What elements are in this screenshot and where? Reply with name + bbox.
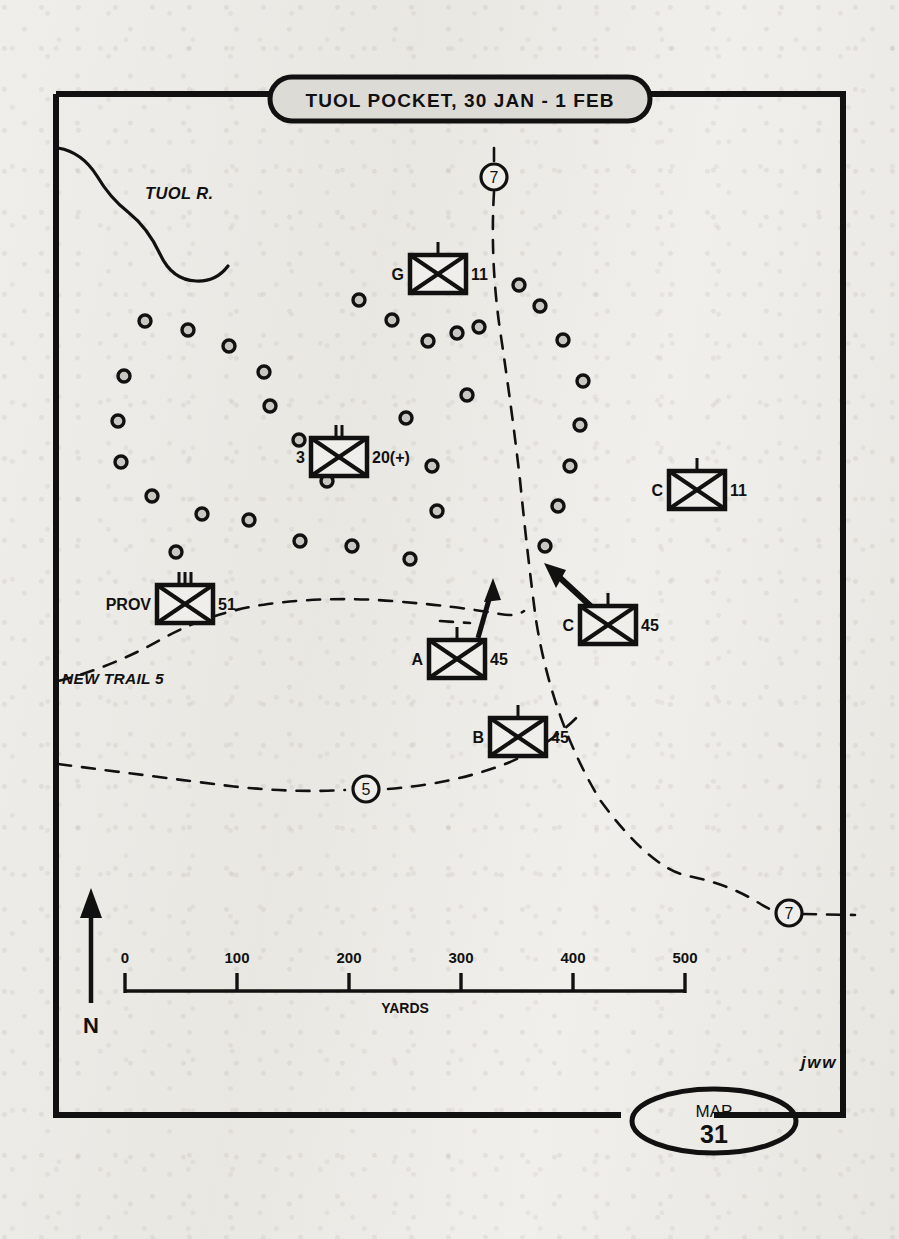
enemy-positions-layer [112, 279, 589, 565]
scale-tick-label: 500 [672, 949, 697, 966]
enemy-position-marker [461, 389, 473, 401]
unit-g-11: G11 [392, 242, 488, 293]
unit-c-11: C11 [651, 458, 747, 509]
enemy-position-marker [473, 321, 485, 333]
route-marker-label: 7 [785, 905, 794, 922]
trail-route5-east [388, 714, 580, 789]
enemy-position-marker [353, 294, 365, 306]
enemy-position-marker [115, 456, 127, 468]
scale-unit-label: YARDS [381, 1000, 429, 1016]
map-title: TUOL POCKET, 30 JAN - 1 FEB [305, 90, 614, 111]
map-number-badge: MAP 31 [632, 1089, 796, 1153]
unit-parent: 11 [730, 482, 747, 499]
unit-b-45: B45 [472, 705, 568, 756]
enemy-position-marker [539, 540, 551, 552]
north-arrow: N [80, 888, 102, 1038]
enemy-position-marker [196, 508, 208, 520]
scale-tick-label: 200 [336, 949, 361, 966]
map-svg: TUOL POCKET, 30 JAN - 1 FEB MAP 31 jww T… [0, 0, 899, 1239]
route-7-top: 7 [481, 164, 507, 190]
enemy-position-marker [112, 415, 124, 427]
scale-tick-label: 300 [448, 949, 473, 966]
route-7-right: 7 [776, 900, 802, 926]
scale-tick-label: 100 [224, 949, 249, 966]
tuol-river: TUOL R. [58, 148, 228, 281]
unit-parent: 51 [218, 596, 236, 613]
scale-bar-line [125, 973, 685, 993]
river-line [58, 148, 228, 281]
unit-parent: 20(+) [372, 449, 410, 466]
route-marker-label: 7 [490, 169, 499, 186]
enemy-position-marker [404, 553, 416, 565]
trail-route5-west [58, 764, 345, 791]
route-marker-label: 5 [362, 781, 371, 798]
north-arrow-head [80, 888, 102, 918]
map-canvas: TUOL POCKET, 30 JAN - 1 FEB MAP 31 jww T… [0, 0, 899, 1239]
scale-tick-label: 0 [121, 949, 129, 966]
unit-designation: B [472, 729, 484, 746]
enemy-position-marker [422, 335, 434, 347]
enemy-position-marker [451, 327, 463, 339]
trail-connector-a [440, 621, 470, 623]
enemy-position-marker [264, 400, 276, 412]
unit-parent: 45 [551, 729, 569, 746]
scale-tick-label: 400 [560, 949, 585, 966]
unit-designation: A [411, 651, 423, 668]
enemy-position-marker [386, 314, 398, 326]
enemy-position-marker [552, 500, 564, 512]
enemy-position-marker [293, 434, 305, 446]
unit-c-45: C45 [562, 593, 658, 644]
title-banner: TUOL POCKET, 30 JAN - 1 FEB [270, 77, 650, 121]
route-5-bottom: 5 [353, 776, 379, 802]
cartographer-signature: jww [799, 1053, 837, 1072]
unit-designation: 3 [296, 449, 305, 466]
enemy-position-marker [294, 535, 306, 547]
enemy-position-marker [139, 315, 151, 327]
scale-bar: YARDS 0100200300400500 [121, 949, 698, 1016]
enemy-position-marker [223, 340, 235, 352]
enemy-position-marker [182, 324, 194, 336]
enemy-position-marker [513, 279, 525, 291]
enemy-position-marker [243, 514, 255, 526]
unit-designation: PROV [106, 596, 152, 613]
unit-a-45: A45 [411, 627, 507, 678]
enemy-position-marker [534, 300, 546, 312]
trail-label: NEW TRAIL 5 [62, 670, 164, 687]
river-label: TUOL R. [145, 184, 214, 202]
north-label: N [83, 1013, 99, 1038]
unit-designation: C [562, 617, 574, 634]
enemy-position-marker [146, 490, 158, 502]
unit-designation: C [651, 482, 663, 499]
enemy-position-marker [346, 540, 358, 552]
enemy-position-marker [118, 370, 130, 382]
enemy-position-marker [170, 546, 182, 558]
map-number: 31 [700, 1120, 728, 1148]
enemy-position-marker [426, 460, 438, 472]
enemy-position-marker [400, 412, 412, 424]
enemy-position-marker [431, 505, 443, 517]
unit-3-20: 320(+) [296, 425, 410, 476]
attack-arrow-left [478, 578, 501, 638]
enemy-position-marker [557, 334, 569, 346]
map-label: MAP [696, 1102, 733, 1121]
trail-route7-east [803, 914, 855, 915]
unit-parent: 45 [490, 651, 508, 668]
enemy-position-marker [564, 460, 576, 472]
enemy-position-marker [577, 375, 589, 387]
unit-designation: G [392, 266, 404, 283]
enemy-position-marker [258, 366, 270, 378]
enemy-position-marker [574, 419, 586, 431]
unit-parent: 11 [471, 266, 488, 283]
unit-symbols-layer: G11320(+)C11PROV51C45A45B45 [106, 242, 747, 756]
unit-parent: 45 [641, 617, 659, 634]
